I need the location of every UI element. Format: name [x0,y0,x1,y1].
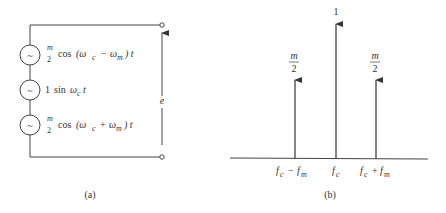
arg: ω [70,84,77,95]
arg-close: ) t [123,119,133,131]
arg-open: (ω [76,119,86,131]
tick-label-lower: f c − f m [276,165,307,179]
amplitude-denominator: 2 [292,63,297,74]
coef-denominator: 2 [47,55,51,64]
subscript: c [77,89,81,98]
subscript: c [92,53,96,62]
subscript: m [116,124,122,133]
arg-tail: t [83,84,86,95]
tilde-symbol: ~ [27,50,33,61]
func-name: sin [54,84,66,95]
coef: 1 [45,84,50,95]
tick-label-upper: f c + f m [360,165,390,179]
amplitude-denominator: 2 [373,63,378,74]
freq-subscript: c [280,170,284,179]
operator: − [288,165,294,176]
freq-subscript: c [336,170,340,179]
amplitude-numerator: m [371,50,378,61]
arg-close: ) t [124,48,134,60]
arg-open: (ω [76,48,86,60]
source-label-carrier: 1 sin ω c t [45,84,86,98]
arg2: ω [110,48,117,59]
circuit-panel-a: ~ ~ ~ m 2 cos (ω c − ω m ) t 1 sin ω [20,23,165,201]
ac-source-lower-sideband: ~ [20,45,40,65]
operator: + [372,165,378,176]
freq2-subscript: m [301,170,307,179]
freq-subscript: c [364,170,368,179]
am-spectrum-figure: ~ ~ ~ m 2 cos (ω c − ω m ) t 1 sin ω [0,0,446,213]
ac-source-upper-sideband: ~ [20,115,40,135]
coef-denominator: 2 [47,126,51,135]
operator: − [101,48,107,59]
subscript: c [92,124,96,133]
coef-numerator: m [47,114,53,123]
func-name: cos [58,48,71,59]
source-label-upper-sideband: m 2 cos (ω c + ω m ) t [47,114,133,135]
arg2: ω [109,119,116,130]
output-label: e [160,95,165,106]
terminal-top [160,23,164,27]
coef-numerator: m [47,43,53,52]
spectrum-panel-b: m 2 1 m 2 f c − f m f c f c + f m [230,6,428,201]
terminal-bottom [160,155,164,159]
tick-label-carrier: f c [332,165,340,179]
caption-a: (a) [84,189,95,201]
func-name: cos [58,119,71,130]
ac-source-carrier: ~ [20,80,40,100]
amplitude-label: 1 [334,6,339,17]
freq2-subscript: m [384,170,390,179]
subscript: m [117,53,123,62]
operator: + [100,119,106,130]
caption-b: (b) [324,189,336,201]
tilde-symbol: ~ [27,85,33,96]
tilde-symbol: ~ [27,120,33,131]
source-label-lower-sideband: m 2 cos (ω c − ω m ) t [47,43,134,64]
frequency-axis [230,158,428,159]
amplitude-numerator: m [290,50,297,61]
